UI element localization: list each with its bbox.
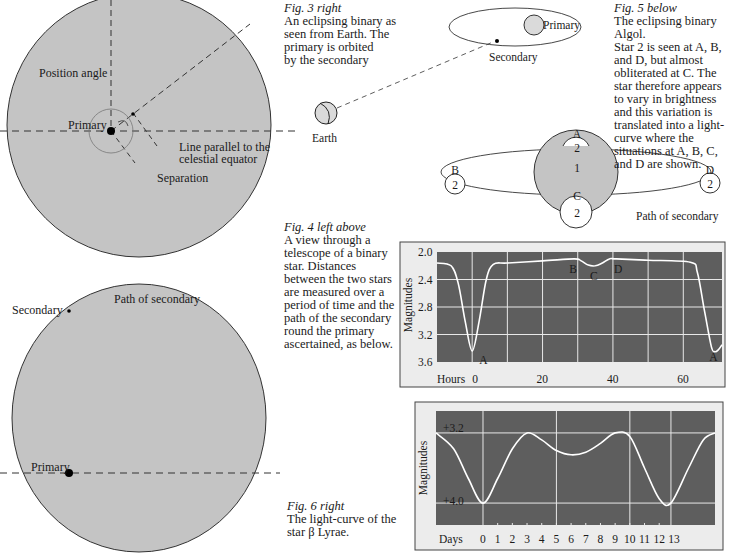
x-axis-label-2: Days: [439, 533, 463, 546]
caption-line: star β Lyrae.: [287, 526, 407, 539]
primary-label-bottom: Primary: [31, 460, 70, 474]
x-tick: 40: [607, 373, 619, 385]
fig4-caption: Fig. 4 left above A view through atelesc…: [284, 221, 404, 351]
fig6-caption-body: The light-curve of thestar β Lyrae.: [287, 513, 407, 539]
secondary-star: [131, 112, 135, 116]
x-tick: 60: [677, 373, 689, 385]
telescope-disc-bottom: Secondary Path of secondary Primary: [0, 284, 280, 552]
y-tick: 2.4: [418, 274, 433, 286]
label-1: 1: [574, 162, 580, 174]
secondary-star-bottom: [67, 309, 71, 313]
caption-line: ascertained, as below.: [284, 338, 404, 351]
earth-globe: [315, 102, 337, 124]
separation-label: Separation: [157, 171, 208, 185]
primary-star: [107, 127, 115, 135]
x-axis-label: Hours: [437, 373, 466, 385]
annotation-A: A: [479, 354, 488, 366]
secondary-label-bottom: Secondary: [12, 303, 63, 317]
y-tick: 3.2: [418, 329, 433, 341]
annotation-B: B: [569, 263, 577, 275]
fig4-caption-body: A view through atelescope of a binarysta…: [284, 234, 404, 351]
annotation-A2: A: [709, 351, 718, 363]
fig3-caption-body: An eclipsing binary asseen from Earth. T…: [284, 15, 434, 67]
x-tick: 0: [472, 373, 478, 385]
y-tick: 2.8: [418, 301, 433, 313]
primary-label: Primary: [68, 118, 107, 132]
fig6-caption: Fig. 6 right The light-curve of thestar …: [287, 500, 407, 539]
caption-line: by the secondary: [284, 54, 434, 67]
label-2-A: 2: [574, 142, 580, 154]
y-tick: +4.0: [443, 495, 464, 507]
plot-area-2: [436, 411, 715, 525]
fig5-caption-body: The eclipsing binaryAlgol.Star 2 is seen…: [614, 15, 737, 171]
fig3-caption: Fig. 3 right An eclipsing binary asseen …: [284, 2, 434, 67]
line-parallel-label-2: celestial equator: [179, 152, 257, 166]
x-tick: 1: [495, 533, 501, 545]
x-tick: 5: [554, 533, 560, 545]
primary-label-fig3: Primary: [543, 19, 580, 32]
x-tick: 2: [509, 533, 515, 545]
x-tick: 6: [568, 533, 574, 545]
x-tick: 7: [583, 533, 589, 545]
x-tick: 12: [653, 533, 665, 545]
y-tick: 3.6: [418, 356, 433, 368]
label-C: C: [573, 190, 581, 202]
secondary-label-fig3: Secondary: [489, 51, 538, 64]
x-tick: 0: [480, 533, 486, 545]
telescope-disc-top: Position angle Primary Line parallel to …: [0, 0, 297, 257]
caption-line: and D are shown.: [614, 158, 737, 171]
label-2-D: 2: [707, 178, 713, 190]
path-of-secondary-label-fig5: Path of secondary: [636, 210, 719, 223]
x-tick: 11: [639, 533, 650, 545]
x-tick: 8: [598, 533, 604, 545]
secondary-dot-fig3: [495, 39, 499, 43]
x-tick: 10: [624, 533, 636, 545]
x-tick: 9: [612, 533, 618, 545]
label-2-C: 2: [574, 207, 580, 219]
label-A: A: [573, 128, 582, 140]
chart-beta-lyrae: +3.2+4.0012345678910111213 Magnitudes Da…: [415, 402, 723, 550]
y-tick: +3.2: [443, 422, 464, 434]
label-B: B: [451, 164, 459, 176]
primary-globe: [524, 15, 544, 35]
label-2-B: 2: [452, 179, 458, 191]
x-tick: 13: [668, 533, 680, 545]
chart-algol: 2.02.42.83.23.60204060ABCDA Magnitudes H…: [400, 242, 725, 387]
position-angle-label: Position angle: [39, 66, 107, 80]
x-tick: 20: [537, 373, 549, 385]
x-tick: 4: [539, 533, 545, 545]
earth-label: Earth: [312, 132, 337, 144]
x-tick: 3: [524, 533, 530, 545]
fig5-caption: Fig. 5 below The eclipsing binaryAlgol.S…: [614, 2, 737, 171]
path-of-secondary-label: Path of secondary: [114, 292, 200, 306]
annotation-D: D: [614, 263, 622, 275]
y-axis-label-2: Magnitudes: [417, 440, 430, 495]
y-tick: 2.0: [418, 246, 433, 258]
annotation-C: C: [590, 270, 598, 282]
